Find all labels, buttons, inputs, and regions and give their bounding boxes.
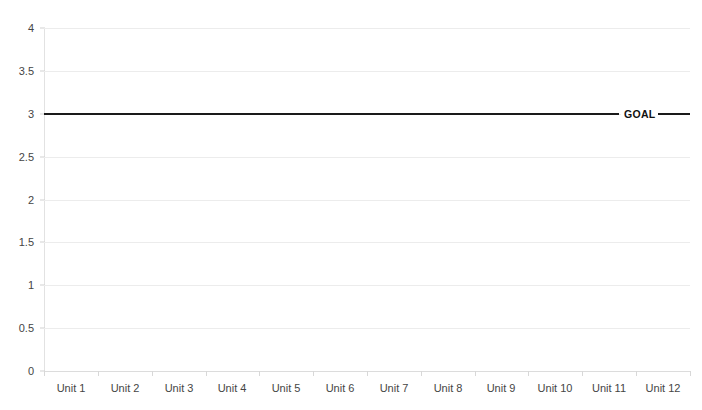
x-axis-label: Unit 3 <box>165 382 194 394</box>
x-axis-label: Unit 1 <box>57 382 86 394</box>
y-tick-label: 0.5 <box>0 322 34 334</box>
x-tick-mark <box>44 371 45 376</box>
y-tick-label: 3.5 <box>0 65 34 77</box>
x-tick-mark <box>421 371 422 376</box>
gridline <box>44 71 690 72</box>
x-axis-label: Unit 10 <box>538 382 573 394</box>
x-tick-mark <box>259 371 260 376</box>
x-tick-mark <box>475 371 476 376</box>
y-tick-label: 4 <box>0 22 34 34</box>
gridline <box>44 157 690 158</box>
x-tick-mark <box>152 371 153 376</box>
y-tick-label: 2.5 <box>0 151 34 163</box>
gridline <box>44 28 690 29</box>
chart-container: 4 3.5 3 2.5 2 1.5 1 0.5 0 <box>0 0 702 410</box>
chart-title <box>0 2 702 12</box>
x-axis-label: Unit 6 <box>326 382 355 394</box>
y-tick-label: 3 <box>0 108 34 120</box>
plot-area <box>44 28 690 371</box>
y-tick-label: 1 <box>0 279 34 291</box>
gridline <box>44 242 690 243</box>
x-tick-mark <box>636 371 637 376</box>
x-tick-mark <box>690 371 691 376</box>
x-tick-mark <box>206 371 207 376</box>
x-axis-label: Unit 11 <box>592 382 626 394</box>
goal-line-segment-right <box>658 113 690 115</box>
x-axis-label: Unit 9 <box>487 382 516 394</box>
gridline <box>44 328 690 329</box>
x-axis-label: Unit 12 <box>646 382 681 394</box>
y-tick-label: 2 <box>0 194 34 206</box>
goal-line-label: GOAL <box>621 108 659 120</box>
x-axis-label: Unit 5 <box>272 382 301 394</box>
x-axis-label: Unit 4 <box>218 382 247 394</box>
y-tick-label: 1.5 <box>0 236 34 248</box>
x-axis-label: Unit 2 <box>111 382 140 394</box>
x-tick-mark <box>98 371 99 376</box>
x-tick-mark <box>528 371 529 376</box>
x-tick-mark <box>367 371 368 376</box>
goal-line-segment-left <box>44 113 619 115</box>
gridline <box>44 200 690 201</box>
x-axis-label: Unit 7 <box>380 382 409 394</box>
gridline <box>44 285 690 286</box>
x-tick-mark <box>313 371 314 376</box>
y-axis-tick-labels: 4 3.5 3 2.5 2 1.5 1 0.5 0 <box>0 0 38 410</box>
y-tick-label: 0 <box>0 365 34 377</box>
x-axis-label: Unit 8 <box>434 382 463 394</box>
x-tick-mark <box>582 371 583 376</box>
